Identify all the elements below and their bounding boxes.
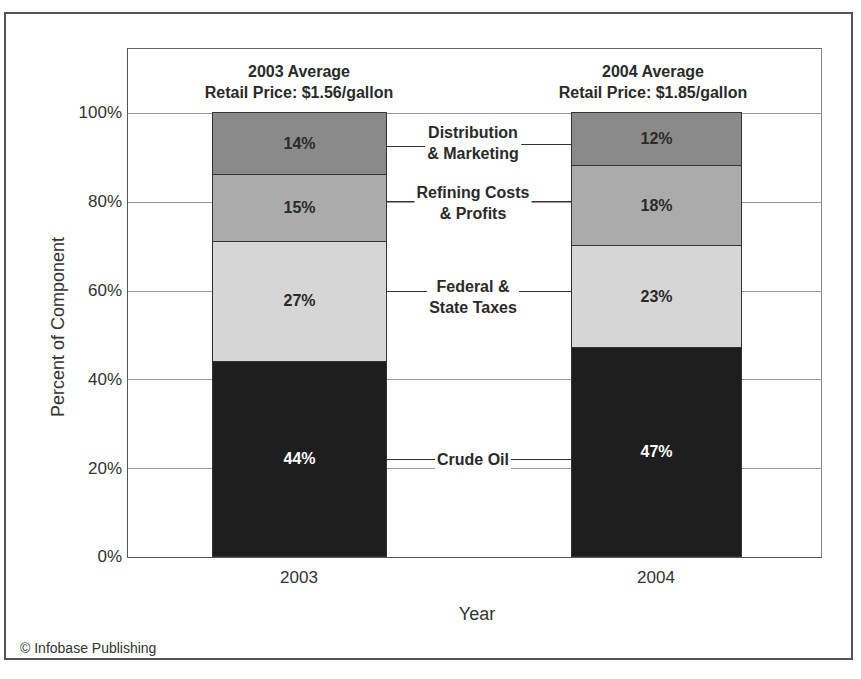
segment-value-label: 27%	[283, 292, 315, 310]
copyright-credit: © Infobase Publishing	[20, 640, 156, 656]
segment-value-label: 12%	[640, 130, 672, 148]
segment-value-label: 47%	[640, 443, 672, 461]
bar-title-2003: 2003 Average Retail Price: $1.56/gallon	[205, 61, 394, 103]
bar-title-2004: 2004 Average Retail Price: $1.85/gallon	[559, 61, 748, 103]
bar-segment-federal-state-taxes: 23%	[571, 245, 742, 348]
y-axis	[127, 48, 128, 558]
category-label: Refining Costs& Profits	[415, 182, 532, 224]
category-label-line: & Profits	[417, 203, 530, 224]
category-label-line: Crude Oil	[437, 449, 509, 470]
bar-segment-distribution-marketing: 14%	[212, 112, 387, 175]
y-tick-label: 80%	[52, 192, 122, 212]
bar-segment-refining-costs-profits: 15%	[212, 174, 387, 242]
category-label-line: Distribution	[427, 122, 519, 143]
y-tick-label: 20%	[52, 459, 122, 479]
category-label-line: Federal &	[429, 276, 517, 297]
x-tick-label: 2003	[280, 568, 318, 588]
y-tick-label: 0%	[52, 547, 122, 567]
bar-segment-crude-oil: 47%	[571, 347, 742, 557]
bar-title-line: Retail Price: $1.85/gallon	[559, 82, 748, 103]
bar-segment-distribution-marketing: 12%	[571, 112, 742, 166]
bar-2004: 47%23%18%12%	[571, 113, 742, 557]
category-label: Distribution& Marketing	[425, 122, 521, 164]
category-label: Crude Oil	[435, 449, 511, 470]
category-label-line: Refining Costs	[417, 182, 530, 203]
segment-value-label: 23%	[640, 288, 672, 306]
segment-value-label: 44%	[283, 450, 315, 468]
segment-value-label: 15%	[283, 199, 315, 217]
x-tick-label: 2004	[637, 568, 675, 588]
bar-2003: 44%27%15%14%	[212, 113, 387, 557]
category-label: Federal &State Taxes	[427, 276, 519, 318]
bar-segment-crude-oil: 44%	[212, 361, 387, 557]
y-tick-label: 100%	[52, 103, 122, 123]
category-label-line: & Marketing	[427, 143, 519, 164]
bar-title-line: 2003 Average	[205, 61, 394, 82]
segment-value-label: 14%	[283, 135, 315, 153]
category-label-line: State Taxes	[429, 297, 517, 318]
bar-segment-federal-state-taxes: 27%	[212, 241, 387, 362]
bar-title-line: 2004 Average	[559, 61, 748, 82]
bar-segment-refining-costs-profits: 18%	[571, 165, 742, 246]
bar-title-line: Retail Price: $1.56/gallon	[205, 82, 394, 103]
segment-value-label: 18%	[640, 197, 672, 215]
y-axis-title: Percent of Component	[48, 237, 69, 417]
x-axis-title: Year	[459, 604, 495, 625]
x-axis	[127, 557, 822, 558]
